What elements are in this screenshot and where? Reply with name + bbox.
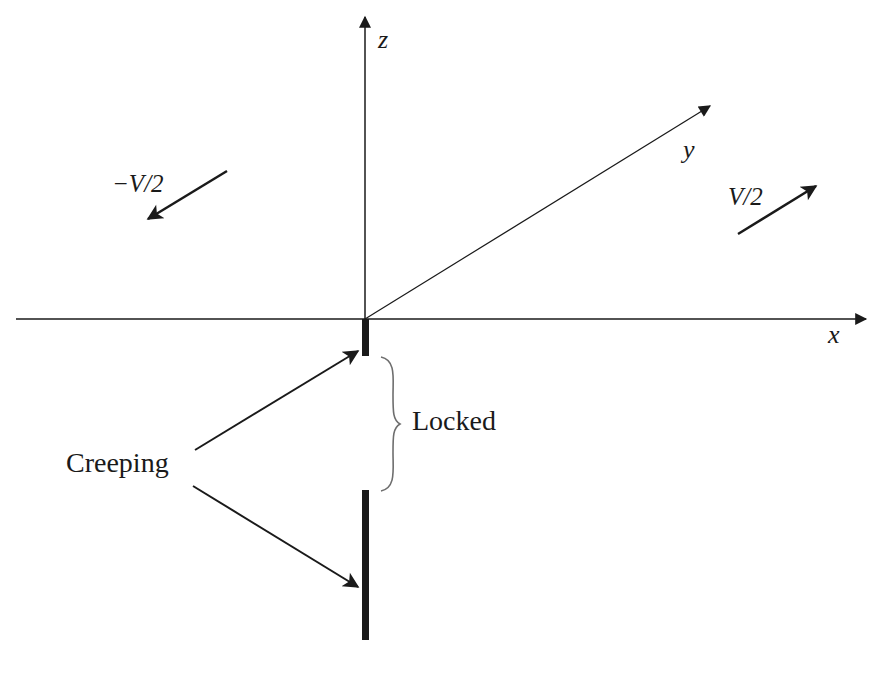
locked-brace-icon: [381, 357, 400, 491]
velocity-right-label: V/2: [728, 183, 763, 210]
creeping-arrow-lower-icon: [193, 486, 358, 587]
y-axis: [365, 106, 710, 319]
velocity-left-label: −V/2: [112, 170, 164, 197]
contact-diagram: z y x −V/2 V/2 Locked Creeping: [0, 0, 896, 676]
creeping-zone-lower: [362, 490, 369, 640]
creeping-arrow-upper-icon: [195, 351, 358, 450]
x-axis-label: x: [827, 320, 840, 349]
creeping-label: Creeping: [66, 447, 169, 478]
locked-label: Locked: [412, 405, 496, 436]
creeping-zone-upper: [362, 319, 369, 356]
z-axis-label: z: [377, 25, 388, 54]
y-axis-label: y: [680, 135, 695, 164]
